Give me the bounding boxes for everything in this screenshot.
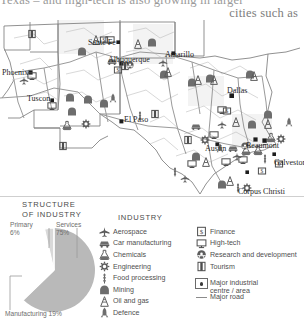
aeroplane-icon bbox=[98, 226, 111, 237]
legend-label-mining: Mining bbox=[111, 286, 134, 294]
city-label-el-paso: El Paso bbox=[124, 115, 148, 124]
pie-label-primary-name: Primary bbox=[10, 221, 33, 229]
legend-item-finance: $ Finance bbox=[195, 226, 304, 238]
city-label-sante-fe: Sante Fe bbox=[88, 38, 116, 47]
flask-icon bbox=[98, 249, 111, 260]
city-label-tuscon: Tuscon bbox=[27, 94, 50, 103]
soi-title-line-1: STRUCTURE bbox=[22, 200, 82, 210]
legend-label-engineering: Engineering bbox=[111, 263, 151, 271]
legend-item-defence: Defence bbox=[98, 307, 194, 319]
city-label-dallas: Dallas bbox=[227, 86, 247, 95]
map-figure: $ bbox=[0, 18, 304, 196]
legend-item-mining: Mining bbox=[98, 284, 194, 296]
legend-item-research-and-development: Research and development bbox=[195, 249, 304, 261]
monument-icon bbox=[195, 261, 208, 272]
legend-label-research-and-development: Research and development bbox=[208, 251, 297, 259]
bank-note-icon: $ bbox=[195, 226, 208, 237]
legend-item-car-manufacturing: Car manufacturing bbox=[98, 238, 194, 250]
pie-label-services: Services 75% bbox=[56, 221, 81, 237]
legend-key-major-centre-line-1: Major industrial bbox=[210, 279, 258, 287]
legend-item-food-processing: Food processing bbox=[98, 272, 194, 284]
legend-key-label-major-road: Major road bbox=[208, 293, 244, 301]
legend-label-high-tech: High-tech bbox=[208, 239, 240, 247]
city-label-beaumont: Beaumont bbox=[246, 141, 279, 150]
legend-label-aerospace: Aerospace bbox=[111, 228, 147, 236]
legend-item-aerospace: Aerospace bbox=[98, 226, 194, 238]
atom-icon bbox=[195, 249, 208, 260]
city-label-galveston: Galveston bbox=[274, 158, 304, 167]
city-label-corpus-christi: Corpus Christi bbox=[238, 187, 285, 196]
computer-icon bbox=[195, 238, 208, 249]
structure-of-industry-title: STRUCTURE OF INDUSTRY bbox=[22, 200, 82, 219]
city-label-amarillo: Amarillo bbox=[165, 50, 194, 59]
pie-label-primary: Primary 6% bbox=[10, 221, 33, 237]
legend-label-food-processing: Food processing bbox=[111, 274, 165, 282]
legend-label-finance: Finance bbox=[208, 228, 235, 236]
pie-label-manufacturing: Manufacturing 19% bbox=[5, 310, 62, 318]
industry-legend-right-column: $ Finance High-tech Research and develop… bbox=[195, 226, 304, 303]
map-graphic: $ bbox=[0, 18, 304, 196]
pie-label-primary-value: 6% bbox=[10, 229, 33, 237]
legend-label-car-manufacturing: Car manufacturing bbox=[111, 239, 171, 247]
svg-text:$: $ bbox=[200, 228, 204, 236]
legend-label-tourism: Tourism bbox=[208, 263, 235, 271]
legend-item-oil-and-gas: Oil and gas bbox=[98, 296, 194, 308]
legend-item-high-tech: High-tech bbox=[195, 238, 304, 250]
legend-label-defence: Defence bbox=[111, 309, 139, 317]
legend-item-tourism: Tourism bbox=[195, 261, 304, 273]
pie-label-services-value: 75% bbox=[56, 229, 81, 237]
legend-key-major-industrial-centre: Major industrial centre / area bbox=[195, 278, 304, 289]
pie-chart-graphic bbox=[8, 224, 112, 316]
wheat-icon bbox=[98, 273, 111, 284]
legend-label-chemicals: Chemicals bbox=[111, 251, 146, 259]
missile-icon bbox=[98, 307, 111, 318]
legend-item-chemicals: Chemicals bbox=[98, 249, 194, 261]
structure-of-industry-pie-chart bbox=[8, 224, 112, 316]
industry-legend-left-column: Aerospace Car manufacturing Chemicals En… bbox=[98, 226, 194, 319]
legend-label-oil-and-gas: Oil and gas bbox=[111, 297, 149, 305]
mine-headgear-icon bbox=[98, 284, 111, 295]
section-divider bbox=[0, 196, 304, 197]
major-centre-icon bbox=[195, 278, 208, 289]
road-line-icon bbox=[195, 292, 208, 303]
legend-item-engineering: Engineering bbox=[98, 261, 194, 273]
gear-icon bbox=[98, 261, 111, 272]
city-label-albuquerque: Albuquerque bbox=[108, 55, 150, 64]
soi-title-line-2: OF INDUSTRY bbox=[22, 210, 82, 220]
car-icon bbox=[98, 238, 111, 249]
city-label-austin: Austin bbox=[205, 144, 226, 153]
page-root: Texas – and high-tech is also growing in… bbox=[0, 0, 304, 322]
city-label-phoenix: Phoenix bbox=[2, 68, 28, 77]
pie-label-services-name: Services bbox=[56, 221, 81, 229]
industry-legend-title: INDUSTRY bbox=[118, 213, 163, 222]
oil-derrick-icon bbox=[98, 296, 111, 307]
